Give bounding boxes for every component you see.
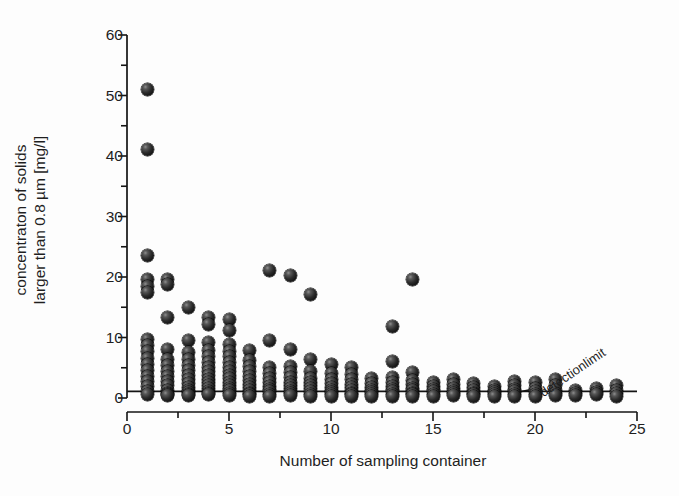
y-tick-label: 20: [89, 268, 123, 286]
y-tick-label: 40: [89, 147, 123, 165]
y-tick-labels: 0102030405060: [85, 0, 123, 496]
y-tick-label: 50: [89, 87, 123, 105]
y-tick-label: 30: [89, 208, 123, 226]
y-tick-label: 60: [89, 26, 123, 44]
scatter-plot-figure: concentraton of solids larger than 0.8 µ…: [0, 0, 679, 496]
y-tick-label: 0: [89, 389, 123, 407]
y-tick-label: 10: [89, 329, 123, 347]
